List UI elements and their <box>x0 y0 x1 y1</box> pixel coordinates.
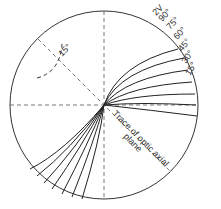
stereographic-projection-diagram: 15° 30° 45° 60° 75° 90° 2V 15° Trace of … <box>0 0 221 209</box>
angle-labels: 15° 30° 45° 60° 75° 90° 2V <box>150 3 198 77</box>
arc-label-15: 15° <box>56 41 73 58</box>
great-circle-curves <box>30 49 197 199</box>
trace-label-line1: Trace of optic axial <box>111 108 171 168</box>
